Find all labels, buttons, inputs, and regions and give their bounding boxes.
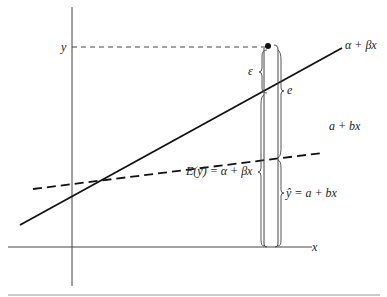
fitted-value-label: ŷ = a + bx bbox=[285, 186, 338, 200]
residual-label: e bbox=[287, 83, 293, 97]
epsilon-label: ε bbox=[248, 64, 253, 78]
sample-line-label: a + bx bbox=[329, 119, 361, 133]
y-axis-label: y bbox=[60, 40, 67, 54]
left-vertical-bracket bbox=[264, 48, 267, 247]
fitted-brace bbox=[278, 160, 284, 246]
x-axis-label: x bbox=[311, 240, 318, 254]
population-line-label: α + βx bbox=[345, 38, 377, 52]
epsilon-brace bbox=[259, 50, 267, 93]
regression-diagram: y x α + βx a + bx ε e E(y) = α + βx ŷ = … bbox=[0, 0, 387, 297]
expected-value-label: E(y) = α + βx bbox=[185, 164, 253, 178]
expected-brace bbox=[258, 95, 264, 246]
residual-brace bbox=[278, 50, 284, 158]
right-vertical-bracket bbox=[274, 45, 278, 247]
sample-regression-line bbox=[33, 153, 322, 189]
data-point bbox=[265, 43, 271, 49]
